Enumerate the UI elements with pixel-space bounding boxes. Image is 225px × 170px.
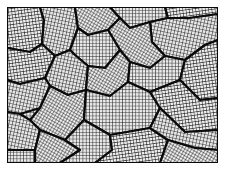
grain-g24	[7, 150, 35, 163]
grain-group	[7, 7, 218, 163]
grain-structure-diagram	[0, 0, 225, 170]
micrograph-figure	[0, 0, 225, 170]
